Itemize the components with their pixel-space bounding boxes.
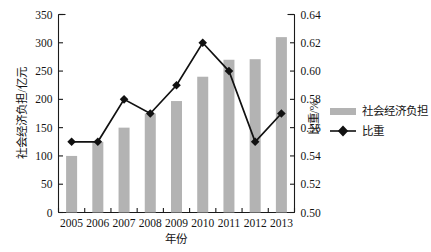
x-tick-label: 2005 (60, 217, 83, 229)
chart-figure: 050100150200250300350 0.500.520.540.560.… (0, 0, 431, 252)
y-axis-title: 社会经济负担/亿元 (15, 66, 28, 158)
bar (197, 77, 208, 213)
x-axis-tick-labels: 200520062007200820092010201120122013 (60, 217, 293, 229)
legend-label-proportion: 比重 (362, 124, 384, 137)
x-tick-label: 2011 (218, 217, 241, 229)
right-tick-label: 0.52 (301, 178, 321, 190)
x-tick-label: 2010 (191, 217, 214, 229)
bar (92, 142, 103, 213)
left-tick-label: 350 (35, 9, 53, 21)
left-tick-label: 100 (35, 150, 53, 162)
x-tick-label: 2006 (86, 217, 109, 229)
right-tick-label: 0.60 (301, 65, 321, 77)
dual-axis-bar-line-chart: 050100150200250300350 0.500.520.540.560.… (0, 0, 431, 252)
legend-swatch-bar (330, 108, 356, 115)
legend-label-social-economic-burden: 社会经济负担 (362, 104, 428, 117)
right-tick-label: 0.62 (301, 37, 321, 49)
bar (250, 59, 261, 212)
x-tick-label: 2012 (244, 217, 267, 229)
x-axis-title: 年份 (165, 232, 188, 245)
x-tick-label: 2007 (113, 217, 136, 229)
x-tick-label: 2009 (165, 217, 188, 229)
left-tick-label: 300 (35, 37, 53, 49)
x-tick-label: 2013 (270, 217, 293, 229)
x-tick-label: 2008 (139, 217, 162, 229)
bar (119, 128, 130, 213)
left-tick-label: 50 (41, 178, 53, 190)
right-tick-label: 0.50 (301, 207, 321, 219)
left-tick-label: 150 (35, 122, 53, 134)
left-tick-label: 250 (35, 65, 53, 77)
y2-axis-title: 比重/% (307, 100, 320, 135)
bar (145, 114, 156, 213)
left-tick-label: 0 (47, 207, 53, 219)
bar (66, 156, 77, 213)
bar (276, 37, 287, 212)
right-tick-label: 0.54 (301, 150, 321, 162)
bar (171, 101, 182, 212)
right-tick-label: 0.64 (301, 9, 321, 21)
left-tick-label: 200 (35, 93, 53, 105)
